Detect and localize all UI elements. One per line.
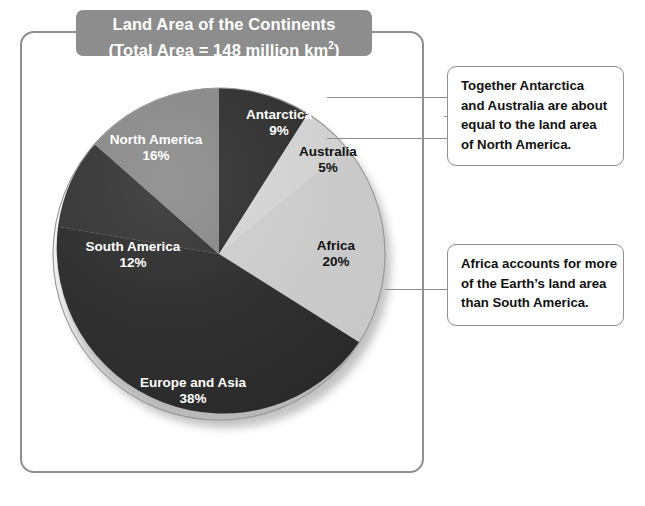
callout-1-line-1: Together Antarctica	[461, 76, 612, 96]
callout-2-line-3: than South America.	[461, 293, 612, 313]
chart-title-total-value: 148 million km	[213, 41, 328, 59]
callout-1-line-2: and Australia are about	[461, 96, 612, 116]
chart-title-total-prefix: (Total Area	[109, 41, 194, 59]
callout-2-line-1: Africa accounts for more	[461, 254, 612, 274]
callout-1-line-3: equal to the land area	[461, 115, 612, 135]
chart-title-equals: =	[199, 41, 209, 59]
chart-title-line1: Land Area of the Continents	[76, 13, 372, 35]
callout-antarctica-australia: Together Antarctica and Australia are ab…	[447, 66, 624, 166]
callout-africa-south-america: Africa accounts for more of the Earth’s …	[447, 244, 624, 326]
callout-1-line-4: of North America.	[461, 135, 612, 155]
chart-title-plaque: Land Area of the Continents (Total Area …	[76, 10, 372, 56]
chart-title-total-suffix: )	[334, 41, 340, 59]
callout-2-line-2: of the Earth’s land area	[461, 274, 612, 294]
chart-title-line2: (Total Area = 148 million km2)	[76, 35, 372, 61]
callout-leader-line-1	[327, 97, 448, 139]
